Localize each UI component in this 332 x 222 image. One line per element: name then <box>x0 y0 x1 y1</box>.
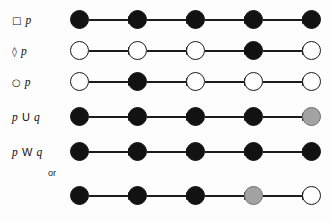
state-node <box>244 41 263 60</box>
row-label-p-until-q: p U q <box>12 104 70 130</box>
state-track <box>70 7 324 33</box>
state-node <box>186 72 205 91</box>
state-node <box>70 107 89 126</box>
row-label-variable: p <box>25 76 31 88</box>
state-node <box>128 186 147 205</box>
state-node <box>70 72 89 91</box>
state-node <box>302 142 321 161</box>
row-label-variable-2: q <box>34 111 40 123</box>
state-node <box>70 186 89 205</box>
box-operator-icon: □ <box>12 15 22 26</box>
state-node <box>186 142 205 161</box>
state-node <box>186 107 205 126</box>
diagram-row: ○ p <box>0 69 332 95</box>
state-node <box>186 10 205 29</box>
state-node <box>70 142 89 161</box>
diagram-row: □ p <box>0 7 332 33</box>
diagram-row: p W q <box>0 139 332 165</box>
state-node <box>186 186 205 205</box>
weak-until-operator-icon: W <box>22 146 33 158</box>
state-node <box>244 186 263 205</box>
row-label-variable: p <box>12 111 18 123</box>
row-label-next-p: ○ p <box>12 69 70 95</box>
row-label-diamond-p: ◊ p <box>12 38 70 64</box>
state-node <box>244 10 263 29</box>
row-label-variable: p <box>26 14 32 26</box>
state-node <box>302 186 321 205</box>
row-label-variable: p <box>21 45 27 57</box>
state-node <box>70 10 89 29</box>
state-track <box>70 104 324 130</box>
state-node <box>128 10 147 29</box>
row-label-box-p: □ p <box>12 7 70 33</box>
circle-operator-icon: ○ <box>12 77 21 88</box>
or-connector-label: or <box>48 168 56 178</box>
diamond-operator-icon: ◊ <box>12 46 18 57</box>
state-node <box>128 72 147 91</box>
row-label-p-weakuntil-q: p W q <box>12 139 70 165</box>
state-node <box>302 10 321 29</box>
diagram-row: ◊ p <box>0 38 332 64</box>
state-node <box>244 142 263 161</box>
row-label-variable: p <box>12 146 18 158</box>
row-label-variable-2: q <box>36 146 42 158</box>
state-node <box>244 72 263 91</box>
state-node <box>70 41 89 60</box>
state-node <box>244 107 263 126</box>
state-track <box>70 38 324 64</box>
state-node <box>128 107 147 126</box>
state-node <box>128 41 147 60</box>
until-operator-icon: U <box>22 111 31 123</box>
state-node <box>186 41 205 60</box>
state-track <box>70 69 324 95</box>
state-track <box>70 139 324 165</box>
state-node <box>302 107 321 126</box>
state-node <box>302 41 321 60</box>
diagram-row <box>0 183 332 209</box>
state-node <box>128 142 147 161</box>
state-track <box>70 183 324 209</box>
temporal-logic-diagram: □ p ◊ p <box>0 0 332 222</box>
state-node <box>302 72 321 91</box>
diagram-row: p U q <box>0 104 332 130</box>
